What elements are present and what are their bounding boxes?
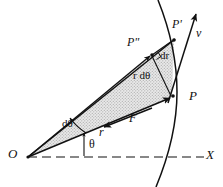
- point-p-label: P: [189, 89, 197, 102]
- theta-label: θ: [89, 138, 95, 150]
- physics-diagram-figure: O X P P' P" v F r dr r dθ dθ θ: [0, 0, 223, 187]
- dtheta-label-text: dθ: [62, 117, 73, 129]
- point-p-prime-label: P': [172, 18, 182, 30]
- dr-label: dr: [160, 50, 169, 61]
- point-p-double-prime-label: P": [127, 36, 139, 48]
- r-dtheta-label: r dθ: [133, 70, 150, 81]
- origin-point-dot: [26, 155, 29, 158]
- r-dtheta-label-text: r dθ: [133, 69, 150, 81]
- velocity-label: v: [196, 27, 201, 39]
- origin-label: O: [8, 147, 17, 160]
- point-p-dot: [171, 94, 175, 98]
- point-p-prime-dot: [172, 38, 176, 42]
- dtheta-label: dθ: [62, 118, 73, 129]
- dr-label-text: dr: [160, 49, 169, 61]
- x-axis-label: X: [206, 148, 214, 161]
- theta-label-text: θ: [89, 137, 95, 151]
- point-p-double-prime-dot: [150, 53, 154, 57]
- radius-label: r: [99, 126, 104, 138]
- force-label: F: [129, 112, 136, 124]
